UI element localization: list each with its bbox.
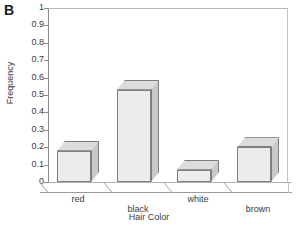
x-tick-label-red: red [48,195,108,204]
y-tick-mark [44,182,48,183]
bar-white [177,160,219,182]
y-tick-mark [44,78,48,79]
bar-side-face [151,80,159,182]
y-tick-label: 0.9 [18,20,44,29]
y-tick-label: 1 [18,3,44,12]
y-tick-mark [44,60,48,61]
bar-red [57,141,99,182]
floor-left-edge [40,182,49,193]
y-tick-mark [44,43,48,44]
panel-letter: B [4,3,14,17]
y-tick-mark [44,95,48,96]
y-tick-label: 0.8 [18,38,44,47]
bar-front-face [117,90,151,182]
y-tick-mark [44,130,48,131]
y-tick-mark [44,112,48,113]
y-tick-label: 0.4 [18,107,44,116]
floor-separator [164,182,175,193]
y-axis-tick-labels: 10.90.80.70.60.50.40.30.20.10 [18,0,44,232]
y-tick-label: 0.1 [18,160,44,169]
floor-separator [104,182,115,193]
y-tick-label: 0.5 [18,90,44,99]
bar-brown [237,137,279,182]
bar-front-face [237,147,271,182]
floor-plane [40,182,292,193]
y-tick-label: 0.7 [18,55,44,64]
y-axis-label: Frequency [5,48,15,118]
bar-front-face [177,170,211,182]
floor-separator [224,182,235,193]
bar-black [117,80,159,182]
y-tick-mark [44,8,48,9]
x-tick-label-white: white [168,195,228,204]
y-tick-label: 0.2 [18,142,44,151]
y-tick-mark [44,25,48,26]
wall-right-drop-edge [288,182,289,193]
bar-front-face [57,151,91,182]
y-tick-label: 0.3 [18,125,44,134]
y-tick-mark [44,165,48,166]
x-axis-label: Hair Color [0,212,298,222]
y-tick-mark [44,147,48,148]
chart-figure: B Frequency 10.90.80.70.60.50.40.30.20.1… [0,0,298,232]
y-tick-label: 0.6 [18,73,44,82]
